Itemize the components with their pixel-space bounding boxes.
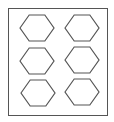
diagram-border (9, 9, 108, 116)
hexagon-shape (20, 48, 54, 74)
hexagon-shape (65, 15, 99, 41)
hexagon-shape (65, 79, 99, 105)
hexagon-grid-diagram (0, 0, 114, 122)
hexagon-shape (65, 47, 99, 73)
hexagon-group (20, 15, 99, 106)
hexagon-shape (20, 15, 54, 41)
hexagon-shape (21, 80, 55, 106)
